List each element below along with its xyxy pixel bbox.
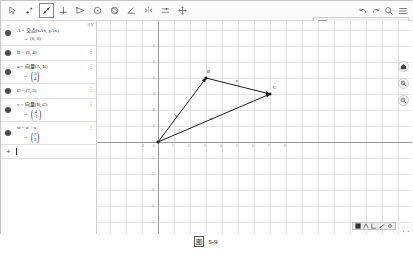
graphics-view[interactable]: 1 2 3 4 5 6 7 8 -1 0 1 2 3 4 5 6 -1 -2 -… bbox=[97, 21, 412, 234]
algebra-expression-a: A = 交点(xAx, yAx) bbox=[17, 27, 86, 35]
slider-tool[interactable] bbox=[158, 3, 173, 18]
visibility-dot-v[interactable] bbox=[5, 107, 11, 113]
algebra-row-vector-v[interactable]: v = 向量(B, C) → ( 4 -1 ) ⋮ bbox=[1, 99, 96, 122]
output-arrow-w: → bbox=[23, 133, 28, 141]
vector-drawing-layer bbox=[97, 21, 412, 234]
output-arrow-u: → bbox=[23, 72, 28, 80]
algebra-expression-w: w = u + v bbox=[17, 124, 86, 132]
circle-tool[interactable] bbox=[90, 3, 105, 18]
algebra-expression-c: C = (7, 3) bbox=[17, 87, 86, 95]
output-arrow-a: → bbox=[23, 35, 28, 43]
vector-u-line bbox=[158, 78, 206, 142]
vector-w-label: w bbox=[210, 116, 213, 121]
redo-button[interactable] bbox=[369, 4, 382, 17]
vector-w-line bbox=[158, 94, 270, 142]
visibility-dot-c[interactable] bbox=[5, 88, 11, 94]
row-kebab-v[interactable]: ⋮ bbox=[88, 101, 94, 107]
algebra-row-vector-u[interactable]: u = 向量(A, B) → ( 3 4 ) ⋮ bbox=[1, 61, 96, 84]
visibility-dot-u[interactable] bbox=[5, 69, 11, 75]
algebra-row-point-c[interactable]: C = (7, 3) ⋮ bbox=[1, 84, 96, 99]
minibar-grid-button[interactable] bbox=[355, 223, 361, 229]
move-graphics-tool[interactable] bbox=[175, 3, 190, 18]
algebra-output-v: → ( 4 -1 ) bbox=[17, 109, 86, 119]
algebra-row-point-b[interactable]: B = (3, 4) ⋮ bbox=[1, 46, 96, 61]
algebra-output-u: → ( 3 4 ) bbox=[17, 71, 86, 81]
zoom-out-button[interactable] bbox=[398, 95, 409, 106]
output-arrow-v: → bbox=[23, 110, 28, 118]
output-value-a: (0, 0) bbox=[30, 35, 41, 43]
output-vector-u: ( 3 4 ) bbox=[30, 71, 40, 81]
row-kebab-b[interactable]: ⋮ bbox=[88, 48, 94, 54]
row-kebab-u[interactable]: ⋮ bbox=[88, 63, 94, 69]
undo-button[interactable] bbox=[356, 4, 369, 17]
algebra-view: ≡V A = 交点(xAx, yAx) → (0, 0) B = (3, 4) … bbox=[1, 21, 97, 234]
graphics-minibar bbox=[352, 222, 396, 230]
angle-tool[interactable] bbox=[124, 3, 139, 18]
point-tool[interactable] bbox=[22, 3, 37, 18]
ellipse-tool[interactable] bbox=[107, 3, 122, 18]
algebra-expression-b: B = (3, 4) bbox=[17, 49, 86, 57]
point-c-label: C bbox=[273, 85, 276, 90]
algebra-output-w: → ( 7 3 ) bbox=[17, 132, 86, 142]
figure-caption: 图 5-9 bbox=[0, 236, 412, 247]
vector-v-label: v bbox=[236, 78, 238, 83]
visibility-dot-b[interactable] bbox=[5, 50, 11, 56]
hamburger-menu-button[interactable] bbox=[396, 4, 409, 17]
minibar-ratio-button[interactable] bbox=[379, 223, 385, 229]
algebra-row-point-a[interactable]: A = 交点(xAx, yAx) → (0, 0) bbox=[1, 21, 96, 46]
row-kebab-c[interactable]: ⋮ bbox=[88, 86, 94, 92]
minibar-snap-button[interactable] bbox=[363, 223, 369, 229]
vector-v-line bbox=[206, 78, 270, 94]
figure-icon: 图 bbox=[194, 236, 204, 247]
point-b-label: B bbox=[207, 69, 210, 74]
move-tool[interactable] bbox=[5, 3, 20, 18]
figure-caption-text: 5-9 bbox=[206, 238, 217, 246]
minibar-axes-button[interactable] bbox=[371, 223, 377, 229]
search-button[interactable] bbox=[382, 4, 395, 17]
output-vector-w: ( 7 3 ) bbox=[30, 132, 40, 142]
vector-v-bottom: -1 bbox=[34, 114, 38, 119]
algebra-expression-u: u = 向量(A, B) bbox=[17, 63, 86, 71]
perpendicular-line-tool[interactable] bbox=[56, 3, 71, 18]
point-c[interactable] bbox=[269, 93, 272, 96]
algebra-row-vector-w[interactable]: w = u + v → ( 7 3 ) ⋮ bbox=[1, 122, 96, 145]
vector-u-label: u bbox=[175, 113, 177, 118]
algebra-output-a: → (0, 0) bbox=[17, 35, 86, 43]
visibility-dot-a[interactable] bbox=[5, 30, 11, 36]
row-kebab-w[interactable]: ⋮ bbox=[88, 124, 94, 130]
output-vector-v: ( 4 -1 ) bbox=[30, 109, 42, 119]
algebra-expression-v: v = 向量(B, C) bbox=[17, 101, 86, 109]
minibar-settings-gear-button[interactable] bbox=[387, 223, 393, 229]
polygon-tool[interactable] bbox=[73, 3, 88, 18]
visibility-dot-w[interactable] bbox=[5, 130, 11, 136]
point-a[interactable] bbox=[157, 141, 160, 144]
line-tool[interactable] bbox=[39, 3, 54, 18]
add-input-icon: + bbox=[6, 148, 11, 156]
drag-corner-handle[interactable] bbox=[402, 224, 410, 232]
zoom-in-button[interactable] bbox=[398, 78, 409, 89]
geogebra-window: ≡V A = 交点(xAx, yAx) → (0, 0) B = (3, 4) … bbox=[0, 0, 412, 234]
reflect-tool[interactable] bbox=[141, 3, 156, 18]
home-button[interactable] bbox=[398, 61, 409, 72]
text-caret bbox=[16, 148, 17, 155]
algebra-input-row[interactable]: + bbox=[1, 145, 96, 159]
point-b[interactable] bbox=[205, 77, 208, 80]
